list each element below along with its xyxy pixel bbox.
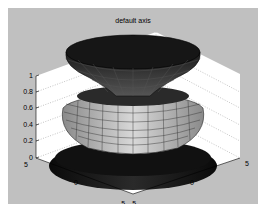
- z-tick-1: 1: [29, 72, 33, 79]
- y-tick-neg5: -5: [119, 200, 125, 204]
- surface-plot: default axis: [8, 8, 258, 204]
- x-tick-neg5: -5: [130, 200, 136, 204]
- figure-window: default axis: [8, 8, 258, 204]
- z-tick-0.6: 0.6: [23, 104, 33, 111]
- z-tick-0.4: 0.4: [23, 121, 33, 128]
- z-tick-0.8: 0.8: [23, 88, 33, 95]
- z-tick-0: 0: [29, 154, 33, 161]
- y-tick-5: 5: [24, 161, 28, 168]
- x-tick-0: 0: [190, 179, 194, 186]
- x-tick-5: 5: [245, 160, 249, 167]
- y-tick-0: 0: [74, 179, 78, 186]
- chart-title: default axis: [115, 17, 151, 24]
- z-tick-0.2: 0.2: [23, 137, 33, 144]
